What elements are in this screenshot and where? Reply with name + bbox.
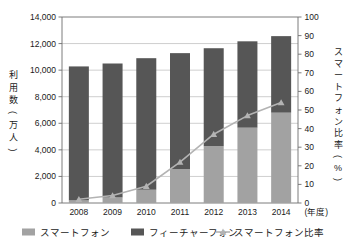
y-axis-right-title-char: ) (333, 178, 343, 181)
bar-segment-smartphone (170, 169, 190, 203)
y-axis-right-title-char: ン (334, 117, 343, 127)
legend-item-label: スマートフォン (40, 227, 110, 238)
bar-segment-smartphone (271, 113, 291, 203)
bar-segment-smartphone (136, 190, 156, 203)
y-axis-right-title-char: ト (334, 82, 343, 92)
x-axis-tick-label: 2012 (204, 207, 223, 217)
y-axis-right-title-char: 率 (334, 139, 343, 150)
x-axis-tick-label: 2013 (238, 207, 257, 217)
y-axis-right-title-char: フ (334, 93, 343, 103)
y-axis-right-tick-label: 60 (305, 86, 315, 96)
bar-segment-feature-phone (170, 53, 190, 169)
y-axis-left-tick-label: 10,000 (30, 65, 56, 75)
bar-segment-feature-phone (136, 58, 156, 190)
y-axis-right-title-char: ス (334, 47, 343, 57)
bar-segment-smartphone (204, 146, 224, 203)
y-axis-right-tick-label: 70 (305, 68, 315, 78)
y-axis-left-title-char: ) (8, 149, 18, 152)
y-axis-right-tick-label: 90 (305, 31, 315, 41)
x-axis-tick-label: 2008 (69, 207, 88, 217)
y-axis-left-tick-label: 12,000 (30, 39, 56, 49)
y-axis-left-tick-label: 0 (51, 198, 56, 208)
y-axis-right-title-char: マ (334, 59, 343, 69)
y-axis-left-title-char: 数 (9, 94, 18, 105)
bar-segment-feature-phone (103, 64, 123, 198)
legend-swatch-icon (22, 229, 35, 236)
x-axis-unit-label: (年度) (305, 207, 329, 217)
y-axis-left-title-char: ( (8, 111, 18, 114)
y-axis-right-title-char: ー (334, 70, 343, 80)
bar-stack (204, 48, 224, 203)
y-axis-right-title-char: ォ (334, 105, 343, 115)
y-axis-left-tick-label: 2,000 (35, 171, 57, 181)
bar-stack (237, 41, 257, 203)
y-axis-right-title-char: ( (333, 155, 343, 158)
y-axis-right-tick-label: 80 (305, 49, 315, 59)
y-axis-left-tick-label: 4,000 (35, 145, 57, 155)
chart-container: 02,0004,0006,0008,00010,00012,00014,000 … (0, 0, 354, 244)
x-axis-tick-label: 2011 (171, 207, 190, 217)
y-axis-right-tick-label: 40 (305, 124, 315, 134)
bar-segment-smartphone (237, 128, 257, 203)
y-axis-right-tick-label: 100 (305, 12, 319, 22)
y-axis-left-title-char: 利 (9, 69, 18, 80)
y-axis-right-title-char: 比 (334, 127, 343, 138)
bar-stack (69, 66, 89, 203)
y-axis-left-title-char: 用 (9, 83, 18, 93)
x-axis-tick-label: 2009 (103, 207, 122, 217)
bar-stack (170, 53, 190, 203)
y-axis-right-tick-label: 20 (305, 161, 315, 171)
bar-stack (103, 64, 123, 204)
bar-segment-feature-phone (69, 66, 89, 200)
chart-legend: スマートフォンフィーチャーフォンスマートフォン比率 (22, 227, 324, 238)
y-axis-right-tick-label: 50 (305, 105, 315, 115)
x-axis-tick-label: 2014 (272, 207, 291, 217)
stacked-bar-line-chart: 02,0004,0006,0008,00010,00012,00014,000 … (0, 0, 354, 244)
y-axis-left-tick-label: 14,000 (30, 12, 56, 22)
x-axis-tick-label: 2010 (137, 207, 156, 217)
y-axis-right-title-char: % (334, 163, 342, 173)
legend-item-label: スマートフォン比率 (234, 227, 324, 238)
y-axis-left-title-char: 人 (9, 133, 18, 143)
y-axis-left-title-char: 万 (9, 120, 18, 130)
y-axis-left-tick-label: 8,000 (35, 92, 57, 102)
x-axis-unit-text: (年度) (305, 207, 329, 217)
y-axis-right-tick-label: 10 (305, 179, 315, 189)
y-axis-right-tick-label: 30 (305, 142, 315, 152)
y-axis-left-tick-label: 6,000 (35, 118, 57, 128)
legend-swatch-icon (131, 229, 144, 236)
bar-stack (271, 36, 291, 203)
